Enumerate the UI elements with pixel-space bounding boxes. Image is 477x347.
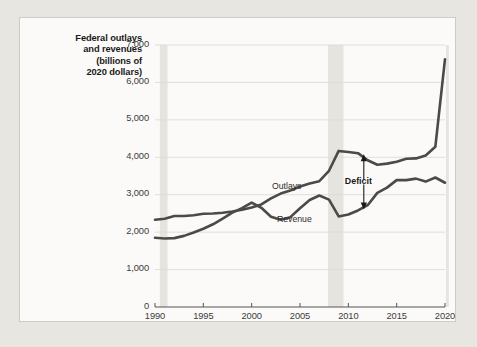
series-path-group (155, 59, 445, 238)
x-tick-label-2010: 2010 (327, 311, 369, 321)
x-tick-label-2015: 2015 (376, 311, 418, 321)
recession-band-2 (328, 45, 343, 307)
y-tick-label-0: 0 (103, 301, 149, 311)
x-tick-label-1995: 1995 (182, 311, 224, 321)
x-tick-label-2005: 2005 (279, 311, 321, 321)
gridline-group (155, 45, 445, 270)
y-tick-label-3000: 3,000 (103, 188, 149, 198)
annotation-label-deficit: Deficit (345, 176, 372, 186)
y-tick-label-2000: 2,000 (103, 226, 149, 236)
recession-band-3 (446, 45, 449, 307)
recession-band-1 (160, 45, 168, 307)
x-tick-label-2000: 2000 (231, 311, 273, 321)
x-tick-label-2020: 2020 (424, 311, 466, 321)
figure-frame: Federal outlays and revenues (billions o… (19, 17, 456, 322)
series-label-outlays: Outlays (272, 181, 301, 191)
y-tick-label-5000: 5,000 (103, 113, 149, 123)
y-tick-label-7000: 7,000 (103, 39, 149, 49)
y-tick-label-6000: 6,000 (103, 76, 149, 86)
y-tick-label-1000: 1,000 (103, 263, 149, 273)
y-tick-label-4000: 4,000 (103, 151, 149, 161)
axis-title-line-3: (billions of (24, 56, 142, 67)
tick-mark-group (155, 303, 445, 307)
recession-band-group (160, 45, 449, 307)
series-line-outlays (155, 59, 445, 220)
series-label-revenue: Revenue (277, 214, 312, 224)
x-tick-label-1990: 1990 (134, 311, 176, 321)
